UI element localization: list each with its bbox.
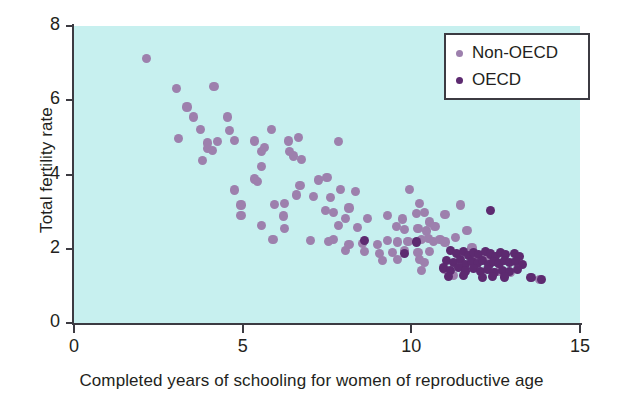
x-tick-label: 5: [223, 337, 263, 355]
scatter-point-oecd: [461, 260, 470, 269]
y-tick-mark: [66, 174, 73, 176]
scatter-point-nonoecd: [400, 225, 409, 234]
scatter-point-oecd: [526, 273, 535, 282]
scatter-point-nonoecd: [321, 206, 330, 215]
legend-label-oecd: OECD: [472, 70, 521, 90]
y-tick-mark: [66, 322, 73, 324]
scatter-point-nonoecd: [360, 247, 369, 256]
scatter-point-oecd: [400, 249, 409, 258]
scatter-point-nonoecd: [225, 126, 234, 135]
scatter-point-oecd: [459, 247, 468, 256]
scatter-point-nonoecd: [270, 200, 279, 209]
scatter-point-nonoecd: [467, 243, 476, 252]
scatter-point-oecd: [446, 246, 455, 255]
scatter-point-nonoecd: [209, 82, 218, 91]
scatter-point-oecd: [486, 249, 495, 258]
x-tick-label: 0: [54, 337, 94, 355]
x-tick-mark: [579, 325, 581, 333]
scatter-point-nonoecd: [174, 134, 183, 143]
scatter-point-oecd: [469, 264, 478, 273]
y-tick-label: 6: [20, 89, 60, 107]
scatter-point-oecd: [412, 237, 421, 246]
scatter-point-nonoecd: [344, 240, 353, 249]
scatter-point-nonoecd: [334, 221, 343, 230]
scatter-point-nonoecd: [429, 237, 438, 246]
scatter-point-oecd: [491, 252, 500, 261]
scatter-point-nonoecd: [535, 275, 544, 284]
scatter-point-nonoecd: [388, 248, 397, 257]
scatter-point-oecd: [537, 275, 546, 284]
scatter-point-oecd: [511, 257, 520, 266]
y-tick-label: 4: [20, 164, 60, 182]
scatter-point-nonoecd: [294, 133, 303, 142]
x-tick-mark: [410, 325, 412, 333]
scatter-point-nonoecd: [462, 226, 471, 235]
scatter-point-nonoecd: [322, 173, 331, 182]
scatter-point-oecd: [501, 250, 510, 259]
scatter-point-oecd: [505, 267, 514, 276]
scatter-point-nonoecd: [250, 174, 259, 183]
y-tick-mark: [66, 99, 73, 101]
scatter-point-oecd: [449, 258, 458, 267]
scatter-point-nonoecd: [280, 224, 289, 233]
scatter-point-nonoecd: [494, 267, 503, 276]
scatter-point-nonoecd: [341, 214, 350, 223]
y-tick-mark: [66, 25, 73, 27]
scatter-point-nonoecd: [483, 252, 492, 261]
x-tick-mark: [242, 325, 244, 333]
scatter-point-nonoecd: [358, 239, 367, 248]
x-tick-label: 15: [560, 337, 600, 355]
scatter-point-oecd: [444, 272, 453, 281]
scatter-point-nonoecd: [393, 255, 402, 264]
x-tick-mark: [73, 325, 75, 333]
scatter-point-nonoecd: [398, 214, 407, 223]
scatter-point-oecd: [483, 265, 492, 274]
legend-swatch-non-oecd: [456, 50, 463, 57]
scatter-point-oecd: [464, 251, 473, 260]
scatter-point-nonoecd: [314, 175, 323, 184]
scatter-point-oecd: [454, 263, 463, 272]
scatter-point-nonoecd: [223, 112, 232, 121]
scatter-point-nonoecd: [230, 136, 239, 145]
scatter-point-nonoecd: [375, 249, 384, 258]
scatter-point-nonoecd: [329, 235, 338, 244]
scatter-point-nonoecd: [329, 208, 338, 217]
scatter-point-nonoecd: [279, 211, 288, 220]
scatter-point-nonoecd: [198, 156, 207, 165]
scatter-point-oecd: [481, 247, 490, 256]
scatter-point-nonoecd: [267, 125, 276, 134]
scatter-point-oecd: [494, 259, 503, 268]
x-tick-label: 10: [391, 337, 431, 355]
scatter-point-nonoecd: [257, 147, 266, 156]
scatter-point-nonoecd: [449, 271, 458, 280]
scatter-point-nonoecd: [363, 214, 372, 223]
scatter-point-nonoecd: [208, 146, 217, 155]
scatter-point-nonoecd: [415, 199, 424, 208]
scatter-point-nonoecd: [344, 203, 353, 212]
scatter-point-oecd: [473, 259, 482, 268]
scatter-point-nonoecd: [378, 256, 387, 265]
scatter-point-oecd: [496, 248, 505, 257]
legend-item-oecd[interactable]: OECD: [456, 67, 521, 93]
scatter-point-nonoecd: [400, 246, 409, 255]
legend-item-non-oecd[interactable]: Non-OECD: [456, 40, 558, 66]
scatter-point-nonoecd: [250, 136, 259, 145]
scatter-point-nonoecd: [383, 211, 392, 220]
x-axis-title: Completed years of schooling for women o…: [0, 371, 623, 391]
scatter-point-nonoecd: [417, 266, 426, 275]
scatter-point-nonoecd: [334, 137, 343, 146]
scatter-point-oecd: [467, 257, 476, 266]
scatter-point-oecd: [461, 266, 470, 275]
scatter-point-nonoecd: [203, 138, 212, 147]
scatter-point-oecd: [500, 272, 509, 281]
scatter-point-oecd: [489, 268, 498, 277]
scatter-point-oecd: [510, 249, 519, 258]
scatter-point-nonoecd: [182, 102, 191, 111]
scatter-point-oecd: [446, 266, 455, 275]
y-tick-mark: [66, 248, 73, 250]
scatter-point-oecd: [476, 267, 485, 276]
scatter-point-nonoecd: [285, 147, 294, 156]
scatter-point-oecd: [469, 248, 478, 257]
y-tick-label: 2: [20, 238, 60, 256]
scatter-point-nonoecd: [392, 222, 401, 231]
